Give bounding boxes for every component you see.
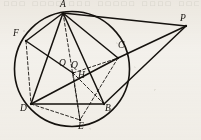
solid-segments-layer <box>26 13 186 104</box>
point-label-E: E <box>78 122 84 132</box>
point-label-Q: Q <box>71 61 78 71</box>
vertex-dot-C <box>117 57 119 59</box>
point-label-B: B <box>105 104 111 114</box>
point-label-D: D <box>20 104 27 114</box>
vertex-dot-F <box>25 40 27 42</box>
segment-A-P <box>63 13 186 26</box>
segment-F-H <box>26 41 73 73</box>
vertex-dot-A <box>62 12 64 14</box>
point-label-P: P <box>180 14 186 24</box>
geometry-canvas <box>0 0 201 140</box>
segment-A-B <box>63 13 104 104</box>
vertex-dot-Q <box>72 72 74 74</box>
segment-A-C <box>63 13 118 58</box>
vertex-dot-P <box>185 25 187 27</box>
geometry-figure: □□□ □□□□ □□□ □□□□□ □□□□ □□□ AFCDBEOQHP <box>0 0 201 140</box>
segment-D-E-dashed <box>31 104 80 120</box>
segment-C-P <box>118 26 186 58</box>
point-label-C: C <box>118 41 124 51</box>
vertex-dot-D <box>30 103 32 105</box>
point-label-H: H <box>78 71 85 81</box>
segment-B-P <box>104 26 186 104</box>
segment-F-D-dashed <box>26 41 31 104</box>
point-label-A: A <box>60 0 66 10</box>
point-label-F: F <box>13 29 19 39</box>
point-label-O: O <box>59 59 66 69</box>
